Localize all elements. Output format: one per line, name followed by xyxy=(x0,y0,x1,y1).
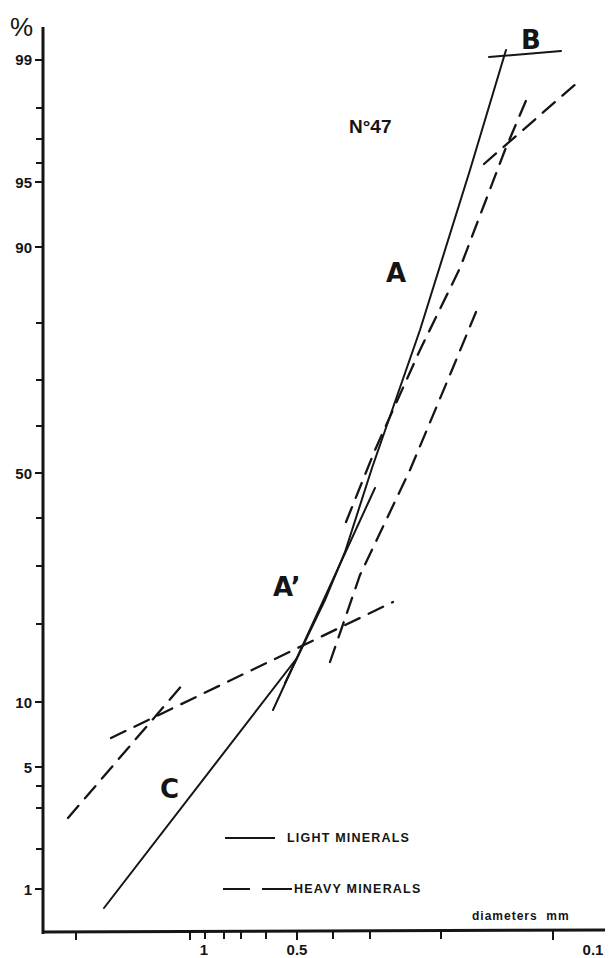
segment-label-b: B xyxy=(521,27,541,53)
x-axis xyxy=(42,930,605,940)
heavy-fine-tail xyxy=(484,82,578,164)
heavy-middle xyxy=(330,312,476,662)
y-tick-99: 99 xyxy=(0,52,32,67)
legend-heavy-minerals: HEAVY MINERALS xyxy=(294,883,421,896)
x-tick-1: 1 xyxy=(200,942,208,957)
heavy-middle-2 xyxy=(346,96,528,522)
y-tick-5: 5 xyxy=(0,760,32,775)
segment-c xyxy=(104,658,297,908)
x-tick-0-5: 0.5 xyxy=(287,942,308,957)
x-tick-0-1: 0.1 xyxy=(583,942,604,957)
segment-label-a: A xyxy=(386,260,406,286)
segment-label-c: C xyxy=(160,776,179,802)
chart-title: N°47 xyxy=(349,117,391,136)
series-heavy-minerals xyxy=(68,82,578,818)
y-tick-95: 95 xyxy=(0,175,32,190)
y-axis xyxy=(35,27,43,934)
legend-lines xyxy=(223,838,292,889)
legend-light-minerals: LIGHT MINERALS xyxy=(287,832,410,845)
y-axis-title: % xyxy=(10,14,33,40)
y-tick-50: 50 xyxy=(0,466,32,481)
segment-label-a-prime: A’ xyxy=(273,574,301,600)
segment-a xyxy=(285,50,506,683)
y-tick-10: 10 xyxy=(0,695,32,710)
y-tick-1: 1 xyxy=(0,882,32,897)
y-tick-90: 90 xyxy=(0,240,32,255)
x-axis-title: diameters mm xyxy=(472,910,570,922)
